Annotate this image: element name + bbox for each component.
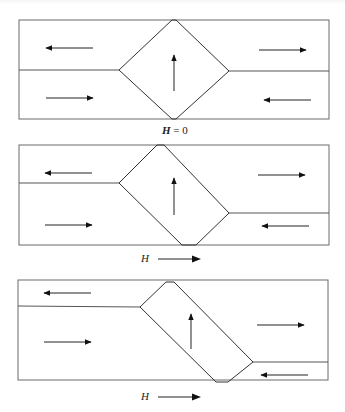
left-domain-boundary: [18, 306, 140, 307]
panel-1: [19, 20, 329, 119]
field-label-zero: H = 0: [162, 124, 188, 136]
field-symbol: H: [141, 252, 149, 264]
field-direction-arrow-icon: [158, 255, 202, 263]
domain-wall-diagram: [0, 0, 345, 412]
panel-frame: [18, 280, 328, 380]
panel-2: [19, 145, 329, 245]
field-value: = 0: [171, 124, 188, 136]
field-label-applied-1: H: [141, 252, 202, 264]
field-symbol: H: [141, 390, 149, 402]
panel-3: [18, 280, 328, 382]
field-direction-arrow-icon: [158, 393, 202, 401]
field-label-applied-2: H: [141, 390, 202, 402]
central-domain-wall: [140, 282, 253, 382]
field-symbol: H: [162, 124, 171, 136]
